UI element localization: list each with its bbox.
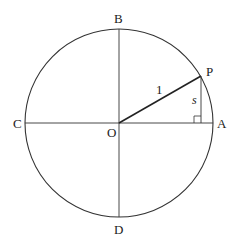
label-radius-1: 1 xyxy=(156,82,163,97)
label-s: s xyxy=(192,93,197,107)
label-O: O xyxy=(107,125,116,140)
label-A: A xyxy=(217,116,227,131)
label-D: D xyxy=(114,222,123,237)
label-P: P xyxy=(206,64,213,79)
label-C: C xyxy=(13,116,22,131)
label-B: B xyxy=(114,11,123,26)
right-angle-marker xyxy=(194,116,201,123)
unit-circle-diagram: B D C A O P 1 s xyxy=(0,0,236,240)
